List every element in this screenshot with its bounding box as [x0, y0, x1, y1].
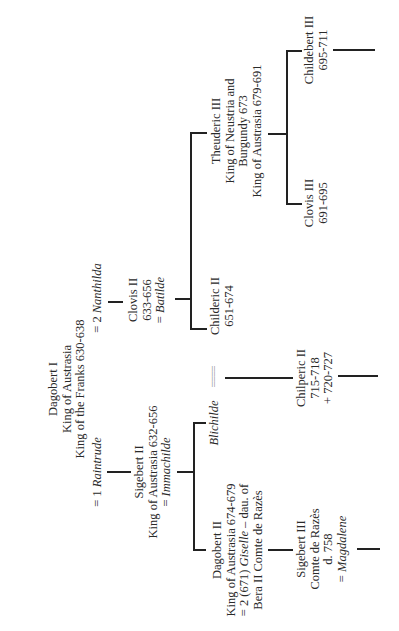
- person-dates: + 720-727: [322, 349, 336, 407]
- marriage-prefix: = 1: [90, 487, 104, 507]
- spouse-name: Nanthilda: [90, 263, 104, 313]
- connector-sigebert-children: [177, 471, 194, 473]
- person-title: King of Austrasia 632-656: [146, 406, 160, 539]
- connector-nanthilda-clovis: [108, 301, 123, 303]
- person-name: Clovis II: [127, 277, 141, 323]
- bracket-theuderic-children: [286, 50, 288, 204]
- spouse-name: Magdalene: [335, 516, 349, 572]
- person-name: Chilperic II: [295, 349, 309, 407]
- node-sigebert-ii: Sigebert II King of Austrasia 632-656 = …: [133, 406, 174, 539]
- connector-dagobert-sigebert-iii: [268, 549, 293, 551]
- node-clovis-ii: Clovis II 633-656 = Batilde: [127, 277, 168, 323]
- connector-chilperic-descendants: [338, 375, 378, 377]
- spouse-name: Batilde: [153, 277, 167, 313]
- spouse-name: Raintrude: [90, 437, 104, 487]
- person-name: Dagobert II: [211, 484, 225, 617]
- spouse-name: Giselle: [237, 531, 251, 566]
- marriage-prefix: = 2: [90, 313, 104, 333]
- person-title: King of Austrasia 674-679: [225, 484, 239, 617]
- node-childeric-ii: Childeric II 651-674: [209, 277, 236, 335]
- connector-theuderic-children: [268, 133, 287, 135]
- person-name: Dagobert I: [47, 320, 61, 459]
- person-dates: 633-656: [140, 277, 154, 323]
- marriage-prefix: =: [159, 496, 173, 506]
- node-chilperic-ii: Chilperic II 715-718 + 720-727: [295, 349, 336, 407]
- connector-to-childebert: [286, 50, 302, 52]
- person-name: Childeric II: [209, 277, 223, 335]
- person-name: Blichilde: [208, 400, 222, 445]
- node-childebert-iii: Childebert III 695-711: [303, 16, 330, 84]
- person-title: King of Neustria and: [224, 65, 238, 198]
- spouse-name: Immachilde: [159, 437, 173, 496]
- person-dates: 691-695: [316, 179, 330, 227]
- node-spouse-nanthilda: = 2 Nanthilda: [91, 263, 105, 333]
- node-spouse-raintrude: = 1 Raintrude: [91, 437, 105, 507]
- connector-to-clovis-iii: [286, 203, 302, 205]
- marriage-prefix: = 2 (671): [237, 566, 251, 616]
- person-title: King of the Franks 630-638: [74, 320, 88, 459]
- person-name: Theuderic III: [210, 65, 224, 198]
- person-name: Sigebert III: [295, 508, 309, 589]
- connector-raintrude-sigebert: [107, 471, 131, 473]
- connector-to-childeric: [190, 328, 207, 330]
- connector-childeric-chilperic: [225, 377, 293, 379]
- person-title: King of Austrasia 679-691: [251, 65, 265, 198]
- connector-sigebert-iii-descendants: [357, 548, 380, 550]
- person-title: Comte de Razès: [309, 508, 323, 589]
- marriage-double-line: ====: [207, 367, 221, 388]
- person-dates: 651-674: [222, 277, 236, 335]
- marriage-symbol: ====: [207, 367, 221, 388]
- node-blichilde: Blichilde: [208, 400, 222, 445]
- bracket-clovis-children: [190, 132, 192, 329]
- person-name: Childebert III: [303, 16, 317, 84]
- spouse-note: – dau. of: [237, 484, 251, 531]
- person-title: Burgundy 673: [237, 65, 251, 198]
- node-clovis-iii: Clovis III 691-695: [303, 179, 330, 227]
- person-name: Clovis III: [303, 179, 317, 227]
- marriage-prefix: =: [153, 313, 167, 323]
- person-dates: 695-711: [316, 16, 330, 84]
- spouse-note: Bera II Comte de Razès: [252, 484, 266, 617]
- connector-to-blichilde: [193, 422, 206, 424]
- connector-clovis-children: [175, 298, 191, 300]
- person-dates: d. 758: [322, 508, 336, 589]
- node-sigebert-iii: Sigebert III Comte de Razès d. 758 = Mag…: [295, 508, 349, 589]
- node-dagobert-ii: Dagobert II King of Austrasia 674-679 = …: [211, 484, 265, 617]
- connector-to-dagobert-ii: [193, 549, 206, 551]
- person-title: King of Austrasia: [60, 320, 74, 459]
- node-theuderic-iii: Theuderic III King of Neustria and Burgu…: [210, 65, 264, 198]
- marriage-prefix: =: [335, 572, 349, 582]
- person-name: Sigebert II: [133, 406, 147, 539]
- node-dagobert-i: Dagobert I King of Austrasia King of the…: [47, 320, 88, 459]
- person-dates: 715-718: [308, 349, 322, 407]
- connector-childebert-descendants: [333, 49, 375, 51]
- bracket-sigebert-children: [193, 422, 195, 550]
- connector-to-theuderic: [190, 132, 207, 134]
